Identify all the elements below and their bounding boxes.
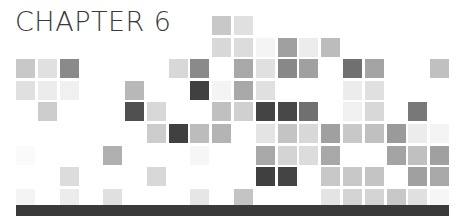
grid-square [278,167,297,186]
grid-square [408,167,427,186]
grid-square [103,146,122,165]
grid-square [408,124,427,143]
grid-square [256,167,275,186]
grid-square [278,102,297,121]
grid-square [256,59,275,78]
grid-square [321,167,340,186]
grid-square [430,59,449,78]
grid-square [212,102,231,121]
grid-square [321,124,340,143]
grid-square [190,59,209,78]
grid-square [60,59,79,78]
grid-square [299,146,318,165]
grid-square [234,81,253,100]
grid-square [299,124,318,143]
grid-square [365,81,384,100]
grid-square [343,59,362,78]
grid-square [212,38,231,57]
grid-square [190,81,209,100]
grid-square [408,146,427,165]
grid-square [38,102,57,121]
grid-square [16,81,35,100]
grid-square [38,59,57,78]
grid-square [321,38,340,57]
grid-square [125,81,144,100]
grid-square [365,59,384,78]
grid-square [212,81,231,100]
grid-square [278,59,297,78]
grid-square [343,167,362,186]
grid-square [365,124,384,143]
grid-square [343,124,362,143]
grid-square [256,81,275,100]
grid-square [256,146,275,165]
grid-square [278,146,297,165]
grid-square [38,81,57,100]
grid-square [60,81,79,100]
grid-square [387,146,406,165]
grid-square [147,124,166,143]
grid-square [343,81,362,100]
grid-square [212,16,231,35]
grid-square [190,146,209,165]
grid-square [321,146,340,165]
grid-square [234,102,253,121]
grid-square [430,146,449,165]
grid-square [299,59,318,78]
grid-square [430,124,449,143]
grid-square [234,16,253,35]
grid-square [256,102,275,121]
grid-square [147,167,166,186]
grid-square [408,102,427,121]
grid-square [430,167,449,186]
grid-square [16,59,35,78]
grid-square [212,124,231,143]
grid-square [387,124,406,143]
grid-square [278,124,297,143]
grid-square [234,59,253,78]
grid-square [147,102,166,121]
grid-square [16,146,35,165]
decorative-pixel-grid [0,0,461,205]
grid-square [299,38,318,57]
grid-square [125,102,144,121]
grid-square [278,38,297,57]
grid-square [343,102,362,121]
grid-square [60,167,79,186]
grid-square [365,167,384,186]
bottom-divider-bar [16,205,449,216]
grid-square [190,124,209,143]
grid-square [234,38,253,57]
grid-square [169,59,188,78]
grid-square [169,124,188,143]
grid-square [299,102,318,121]
grid-square [256,38,275,57]
grid-square [365,102,384,121]
grid-square [256,124,275,143]
